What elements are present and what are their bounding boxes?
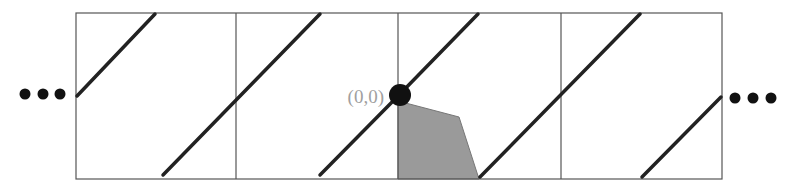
diagonal-line (480, 14, 640, 177)
ellipsis-dot (38, 89, 49, 100)
ellipsis-dot (20, 89, 31, 100)
ellipsis-left-icon (20, 89, 66, 100)
periodic-strip-diagram: (0,0) (0, 0, 794, 188)
diagonal-line (77, 14, 155, 96)
ellipsis-dot (748, 93, 759, 104)
ellipsis-dot (766, 93, 777, 104)
diagonal-line (320, 96, 398, 175)
diagonal-line (398, 14, 478, 96)
origin-label: (0,0) (348, 86, 384, 108)
ellipsis-right-icon (730, 93, 777, 104)
shaded-polygon (398, 101, 479, 179)
origin-dot (389, 84, 411, 106)
shaded-region (398, 101, 479, 179)
diagonal-line (642, 97, 721, 177)
diagonal-line (163, 14, 320, 175)
ellipsis-dot (55, 89, 66, 100)
origin-point (389, 84, 411, 106)
ellipsis-dot (730, 93, 741, 104)
